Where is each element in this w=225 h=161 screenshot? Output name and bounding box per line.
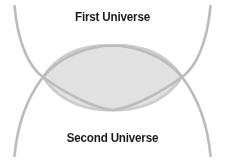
second-universe-label: Second Universe — [8, 132, 217, 145]
intersection-lens — [43, 45, 182, 110]
first-universe-label: First Universe — [8, 11, 217, 24]
venn-diagram: First Universe Second Universe — [0, 0, 225, 161]
